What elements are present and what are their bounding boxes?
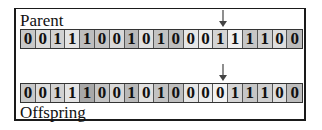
gene-cell: 0 <box>287 30 302 48</box>
gene-cell: 1 <box>51 84 66 102</box>
parent-chromosome: 0011100101000111100 <box>20 29 303 49</box>
gene-cell: 1 <box>228 84 243 102</box>
gene-cell: 0 <box>110 30 125 48</box>
gene-cell: 1 <box>65 84 80 102</box>
gene-cell: 1 <box>243 30 258 48</box>
offspring-chromosome: 0011100101000011100 <box>20 83 303 103</box>
gene-cell: 0 <box>139 84 154 102</box>
arrow-down-icon <box>218 64 228 82</box>
gene-cell: 1 <box>228 30 243 48</box>
gene-cell: 0 <box>273 30 288 48</box>
parent-label: Parent <box>20 12 63 29</box>
gene-cell: 1 <box>80 84 95 102</box>
gene-cell: 0 <box>110 84 125 102</box>
gene-cell: 1 <box>258 84 273 102</box>
gene-cell: 0 <box>95 30 110 48</box>
gene-cell: 1 <box>154 84 169 102</box>
gene-cell: 0 <box>273 84 288 102</box>
gene-cell: 1 <box>125 30 140 48</box>
gene-cell: 0 <box>21 84 36 102</box>
gene-cell: 0 <box>213 84 228 102</box>
gene-cell: 1 <box>213 30 228 48</box>
gene-cell: 0 <box>36 84 51 102</box>
gene-cell: 0 <box>199 30 214 48</box>
gene-cell: 1 <box>154 30 169 48</box>
gene-cell: 0 <box>199 84 214 102</box>
gene-cell: 1 <box>258 30 273 48</box>
gene-cell: 0 <box>95 84 110 102</box>
gene-cell: 0 <box>21 30 36 48</box>
gene-cell: 1 <box>243 84 258 102</box>
gene-cell: 0 <box>169 84 184 102</box>
gene-cell: 1 <box>80 30 95 48</box>
gene-cell: 1 <box>125 84 140 102</box>
gene-cell: 0 <box>184 84 199 102</box>
gene-cell: 1 <box>65 30 80 48</box>
gene-cell: 0 <box>36 30 51 48</box>
gene-cell: 1 <box>51 30 66 48</box>
gene-cell: 0 <box>184 30 199 48</box>
arrow-down-icon <box>218 10 228 28</box>
gene-cell: 0 <box>139 30 154 48</box>
gene-cell: 0 <box>287 84 302 102</box>
gene-cell: 0 <box>169 30 184 48</box>
offspring-label: Offspring <box>20 104 86 121</box>
